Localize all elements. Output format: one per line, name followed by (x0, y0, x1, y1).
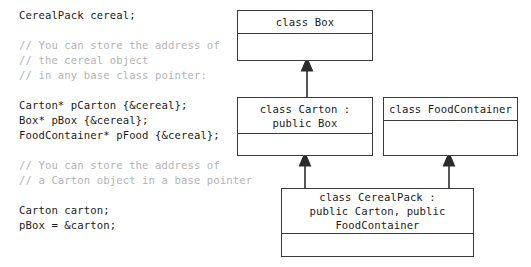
connector-cerealpack-to-carton (300, 153, 311, 188)
class-cerealpack-members (282, 234, 473, 256)
class-foodcontainer-title: class FoodContainer (389, 102, 512, 116)
class-box-members (238, 34, 372, 60)
class-carton-title: class Carton : public Box (260, 102, 351, 130)
class-box-carton: class Carton : public Box (237, 97, 373, 156)
class-foodcontainer-header: class FoodContainer (384, 98, 517, 121)
class-box-cerealpack: class CerealPack : public Carton, public… (281, 188, 474, 257)
class-box-header: class Box (238, 11, 372, 34)
class-cerealpack-title: class CerealPack : public Carton, public… (309, 190, 445, 232)
class-foodcontainer-members (384, 121, 517, 155)
uml-inheritance-diagram-figure: CerealPack cereal; // You can store the … (0, 0, 531, 267)
class-box-foodcontainer: class FoodContainer (383, 97, 518, 156)
class-carton-members (238, 134, 372, 155)
class-box-title: class Box (276, 15, 334, 29)
class-cerealpack-header: class CerealPack : public Carton, public… (282, 189, 473, 234)
class-box-box: class Box (237, 10, 373, 61)
connector-carton-to-box (302, 58, 313, 97)
connector-cerealpack-to-foodcontainer (444, 153, 455, 188)
class-carton-header: class Carton : public Box (238, 98, 372, 134)
